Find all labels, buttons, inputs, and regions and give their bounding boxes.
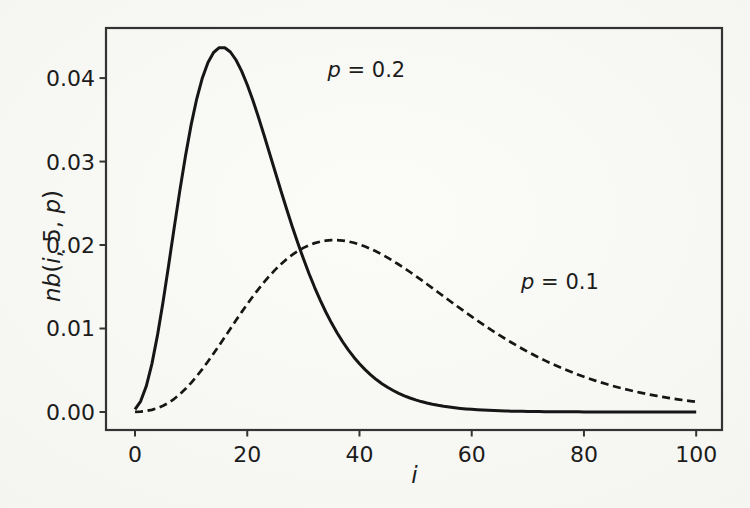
x-tick-label: 0 [128, 442, 142, 467]
figure: 0204060801000.000.010.020.030.04p = 0.2p… [0, 0, 750, 508]
math-text: = 0.2 [341, 58, 405, 82]
y-tick-label: 0.01 [46, 316, 95, 341]
math-text: = 0.1 [534, 270, 598, 294]
x-tick-label: 20 [233, 442, 261, 467]
x-tick-label: 60 [458, 442, 486, 467]
y-tick-label: 0.04 [46, 66, 95, 91]
annotation-p02: p = 0.2 [326, 58, 405, 82]
x-tick-label: 100 [675, 442, 717, 467]
math-text: , 5, [39, 214, 65, 258]
y-axis-label: nb(i, 5, p) [39, 190, 65, 302]
math-var: p [520, 270, 534, 294]
x-axis-label: i [411, 462, 418, 488]
math-var: nb [39, 273, 65, 302]
y-tick-label: 0.00 [46, 400, 95, 425]
series-curve-p01 [135, 240, 696, 412]
x-tick-label: 80 [570, 442, 598, 467]
series-curve-p02 [135, 48, 696, 412]
math-var: i [411, 462, 418, 488]
annotation-p01: p = 0.1 [520, 270, 599, 294]
math-var: p [326, 58, 340, 82]
math-var: p [39, 199, 65, 215]
math-text: ) [39, 190, 65, 199]
y-tick-label: 0.03 [46, 150, 95, 175]
chart-svg: 0204060801000.000.010.020.030.04p = 0.2p… [0, 0, 750, 508]
math-text: ( [39, 264, 65, 273]
x-tick-label: 40 [345, 442, 373, 467]
